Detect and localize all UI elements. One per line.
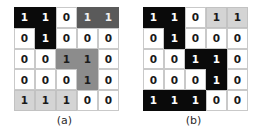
grid-cell: 0 [227,90,248,111]
grid-cell: 0 [56,28,77,49]
grid-cell: 0 [14,28,35,49]
grid-cell: 0 [143,49,164,70]
grid-cell: 0 [77,28,98,49]
grid-cell: 0 [98,69,119,90]
panel-a: 1101101000001100001011100 (a) [0,0,129,138]
grid-cell: 0 [164,49,185,70]
grid-cell: 0 [35,49,56,70]
grid-cell: 1 [14,7,35,28]
grid-wrap-b: 1101101000001100001011100 [143,7,248,111]
grid-cell: 0 [227,49,248,70]
grid-cell: 0 [143,28,164,49]
grid-cell: 0 [77,90,98,111]
grid-cell: 0 [98,90,119,111]
grid-cell: 0 [14,49,35,70]
grid-cell: 1 [35,28,56,49]
grid-cell: 1 [143,7,164,28]
grid-cell: 0 [227,28,248,49]
grid-cell: 1 [206,49,227,70]
grid-cell: 0 [185,69,206,90]
grid-cell: 1 [56,90,77,111]
grid-cell: 0 [206,28,227,49]
grid-cell: 1 [77,69,98,90]
grid-cell: 0 [56,7,77,28]
grid-cell: 1 [77,7,98,28]
binary-grid-a: 1101101000001100001011100 [14,7,119,111]
grid-cell: 1 [14,90,35,111]
grid-cell: 0 [185,7,206,28]
grid-cell: 0 [56,69,77,90]
grid-cell: 1 [185,90,206,111]
grid-cell: 0 [206,90,227,111]
caption-b: (b) [129,114,258,127]
grid-cell: 0 [164,69,185,90]
grid-cell: 0 [14,69,35,90]
grid-cell: 1 [227,7,248,28]
binary-grid-b: 1101101000001100001011100 [143,7,248,111]
grid-cell: 1 [164,28,185,49]
grid-cell: 1 [56,49,77,70]
panel-b: 1101101000001100001011100 (b) [129,0,258,138]
grid-cell: 1 [77,49,98,70]
grid-cell: 1 [206,7,227,28]
caption-a: (a) [0,114,129,127]
grid-cell: 1 [35,7,56,28]
grid-cell: 1 [35,90,56,111]
grid-cell: 0 [185,28,206,49]
grid-cell: 0 [98,49,119,70]
grid-wrap-a: 1101101000001100001011100 [14,7,119,111]
grid-cell: 1 [185,49,206,70]
grid-cell: 1 [164,90,185,111]
grid-cell: 0 [227,69,248,90]
grid-cell: 0 [35,69,56,90]
grid-cell: 1 [164,7,185,28]
grid-cell: 1 [206,69,227,90]
grid-cell: 1 [98,7,119,28]
grid-cell: 0 [98,28,119,49]
figure-root: 1101101000001100001011100 (a) 1101101000… [0,0,258,138]
grid-cell: 1 [143,90,164,111]
grid-cell: 0 [143,69,164,90]
